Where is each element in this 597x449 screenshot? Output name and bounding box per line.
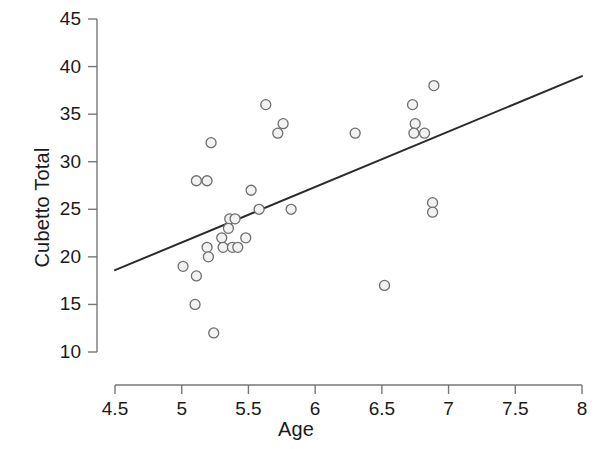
data-point xyxy=(218,242,228,252)
data-point xyxy=(286,204,296,214)
data-point xyxy=(420,128,430,138)
data-point xyxy=(191,271,201,281)
x-tick-label: 8 xyxy=(577,398,588,420)
data-point xyxy=(428,207,438,217)
data-point xyxy=(209,328,219,338)
data-point xyxy=(190,299,200,309)
x-tick-label: 4.5 xyxy=(102,398,128,420)
x-tick-label: 7.5 xyxy=(502,398,528,420)
y-tick-label: 40 xyxy=(28,56,81,78)
data-point xyxy=(202,242,212,252)
data-point xyxy=(254,204,264,214)
data-point xyxy=(233,242,243,252)
x-tick-label: 5 xyxy=(176,398,187,420)
data-point xyxy=(206,138,216,148)
data-point xyxy=(246,185,256,195)
data-point xyxy=(191,176,201,186)
plot-canvas xyxy=(0,0,597,449)
data-point xyxy=(350,128,360,138)
trendline xyxy=(115,76,582,270)
data-point xyxy=(261,100,271,110)
x-tick-label: 6.5 xyxy=(369,398,395,420)
data-point xyxy=(380,280,390,290)
data-points xyxy=(178,81,439,338)
data-point xyxy=(410,119,420,129)
y-tick-label: 25 xyxy=(28,198,81,220)
y-tick-label: 30 xyxy=(28,151,81,173)
x-axis xyxy=(115,385,582,394)
y-axis xyxy=(88,19,97,352)
x-tick-label: 5.5 xyxy=(235,398,261,420)
y-tick-label: 45 xyxy=(28,8,81,30)
data-point xyxy=(217,233,227,243)
y-tick-label: 10 xyxy=(28,341,81,363)
data-point xyxy=(429,81,439,91)
x-tick-label: 7 xyxy=(443,398,454,420)
scatter-plot-figure: Cubetto Total Age 10152025303540454.555.… xyxy=(0,0,597,449)
y-tick-label: 35 xyxy=(28,103,81,125)
data-point xyxy=(203,252,213,262)
data-point xyxy=(273,128,283,138)
x-tick-label: 6 xyxy=(310,398,321,420)
data-point xyxy=(408,100,418,110)
y-tick-label: 15 xyxy=(28,293,81,315)
data-point xyxy=(241,233,251,243)
data-point xyxy=(278,119,288,129)
data-point xyxy=(178,261,188,271)
data-point xyxy=(409,128,419,138)
y-tick-label: 20 xyxy=(28,246,81,268)
data-point xyxy=(230,214,240,224)
data-point xyxy=(223,223,233,233)
data-point xyxy=(428,198,438,208)
data-point xyxy=(202,176,212,186)
